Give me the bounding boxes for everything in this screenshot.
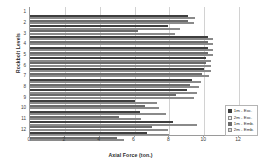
bar-2m-emb <box>30 118 141 120</box>
bar-group <box>30 89 238 100</box>
bar-group <box>30 25 238 36</box>
y-tick-label: 10 <box>15 105 26 110</box>
y-tick-label: 1 <box>15 9 26 14</box>
y-tick-label: 9 <box>15 95 26 100</box>
bar-group <box>30 78 238 89</box>
bar-2m-emb <box>30 97 194 99</box>
plot-area <box>29 7 238 135</box>
x-tick-mark <box>64 135 65 137</box>
legend-label: 2m - Exc. <box>234 115 253 121</box>
y-tick-label: 12 <box>15 127 26 132</box>
axial-force-bar-chart: Rockbolt Levels 024681012 12345678910111… <box>0 0 261 160</box>
legend-item: 2m - Emb. <box>228 127 254 133</box>
bar-group <box>30 57 238 68</box>
legend-label: 2m - Emb. <box>234 127 254 133</box>
x-tick-mark <box>168 135 169 137</box>
bar-group <box>30 67 238 78</box>
bar-2m-emb <box>30 129 168 131</box>
bar-2m-emb <box>30 107 159 109</box>
bar-group <box>30 121 238 132</box>
bar-group <box>30 46 238 57</box>
bar-2m-emb <box>30 65 211 67</box>
bar-2m-emb <box>30 86 199 88</box>
legend-label: 1m - Emb. <box>234 121 254 127</box>
bar-2m-emb <box>30 75 209 77</box>
x-tick-mark <box>134 135 135 137</box>
y-tick-label: 4 <box>15 41 26 46</box>
legend-swatch-icon <box>228 109 232 113</box>
bar-group <box>30 35 238 46</box>
x-tick-mark <box>203 135 204 137</box>
bar-2m-emb <box>30 33 175 35</box>
legend-swatch-icon <box>228 116 232 120</box>
legend-swatch-icon <box>228 122 232 126</box>
x-tick-mark <box>29 135 30 137</box>
bar-group <box>30 99 238 110</box>
x-axis-title: Axial Force (ton.) <box>0 152 261 158</box>
y-tick-label: 6 <box>15 63 26 68</box>
x-tick-mark <box>99 135 100 137</box>
chart-legend: 1m - Exc.2m - Exc.1m - Emb.2m - Emb. <box>225 105 258 136</box>
y-tick-label: 11 <box>15 116 26 121</box>
legend-swatch-icon <box>228 128 232 132</box>
bar-2m-emb <box>30 139 124 141</box>
bar-2m-emb <box>30 22 194 24</box>
bar-group <box>30 110 238 121</box>
bar-2m-emb <box>30 54 213 56</box>
bar-group <box>30 14 238 25</box>
y-tick-label: 3 <box>15 31 26 36</box>
y-tick-label: 7 <box>15 73 26 78</box>
y-tick-label: 5 <box>15 52 26 57</box>
legend-label: 1m - Exc. <box>234 108 253 114</box>
bar-2m-emb <box>30 43 213 45</box>
y-tick-label: 8 <box>15 84 26 89</box>
y-tick-label: 2 <box>15 20 26 25</box>
